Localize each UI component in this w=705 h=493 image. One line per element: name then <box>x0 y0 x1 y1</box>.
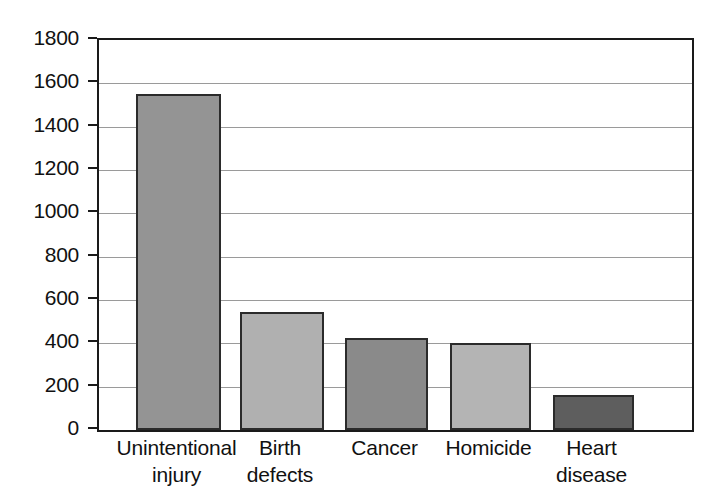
y-tick-mark-1400 <box>88 124 97 126</box>
bar-cancer[interactable] <box>345 338 428 430</box>
x-tick-label-heart-disease: Heartdisease <box>507 434 677 488</box>
y-tick-mark-0 <box>88 427 97 429</box>
plot-area <box>97 38 694 432</box>
y-tick-mark-1000 <box>88 210 97 212</box>
x-tick-label-line2: defects <box>195 461 365 488</box>
y-tick-label-600: 600 <box>45 287 79 308</box>
bar-unintentional-injury[interactable] <box>136 94 221 430</box>
y-tick-label-800: 800 <box>45 244 79 265</box>
y-tick-label-1400: 1400 <box>33 114 79 135</box>
bars-layer <box>99 40 692 430</box>
y-tick-label-1200: 1200 <box>33 157 79 178</box>
y-tick-mark-200 <box>88 384 97 386</box>
bar-birth-defects[interactable] <box>240 312 324 430</box>
x-tick-label-line2: disease <box>507 461 677 488</box>
y-tick-mark-600 <box>88 297 97 299</box>
y-tick-mark-1200 <box>88 167 97 169</box>
y-tick-label-1000: 1000 <box>33 200 79 221</box>
bar-chart-figure: 020040060080010001200140016001800 Uninte… <box>0 0 705 493</box>
y-tick-label-400: 400 <box>45 330 79 351</box>
y-tick-label-1800: 1800 <box>33 27 79 48</box>
y-tick-mark-1800 <box>88 37 97 39</box>
y-tick-label-200: 200 <box>45 374 79 395</box>
y-tick-label-1600: 1600 <box>33 70 79 91</box>
bar-homicide[interactable] <box>450 343 531 430</box>
x-axis-tick-labels: UnintentionalinjuryBirthdefectsCancerHom… <box>97 434 690 493</box>
x-tick-label-line1: Heart <box>566 436 616 459</box>
x-tick-label-line1: Birth <box>259 436 301 459</box>
y-tick-mark-400 <box>88 340 97 342</box>
y-tick-mark-1600 <box>88 80 97 82</box>
y-tick-label-0: 0 <box>68 417 79 438</box>
y-tick-mark-800 <box>88 254 97 256</box>
bar-heart-disease[interactable] <box>553 395 634 430</box>
y-axis-tick-labels: 020040060080010001200140016001800 <box>0 0 79 493</box>
